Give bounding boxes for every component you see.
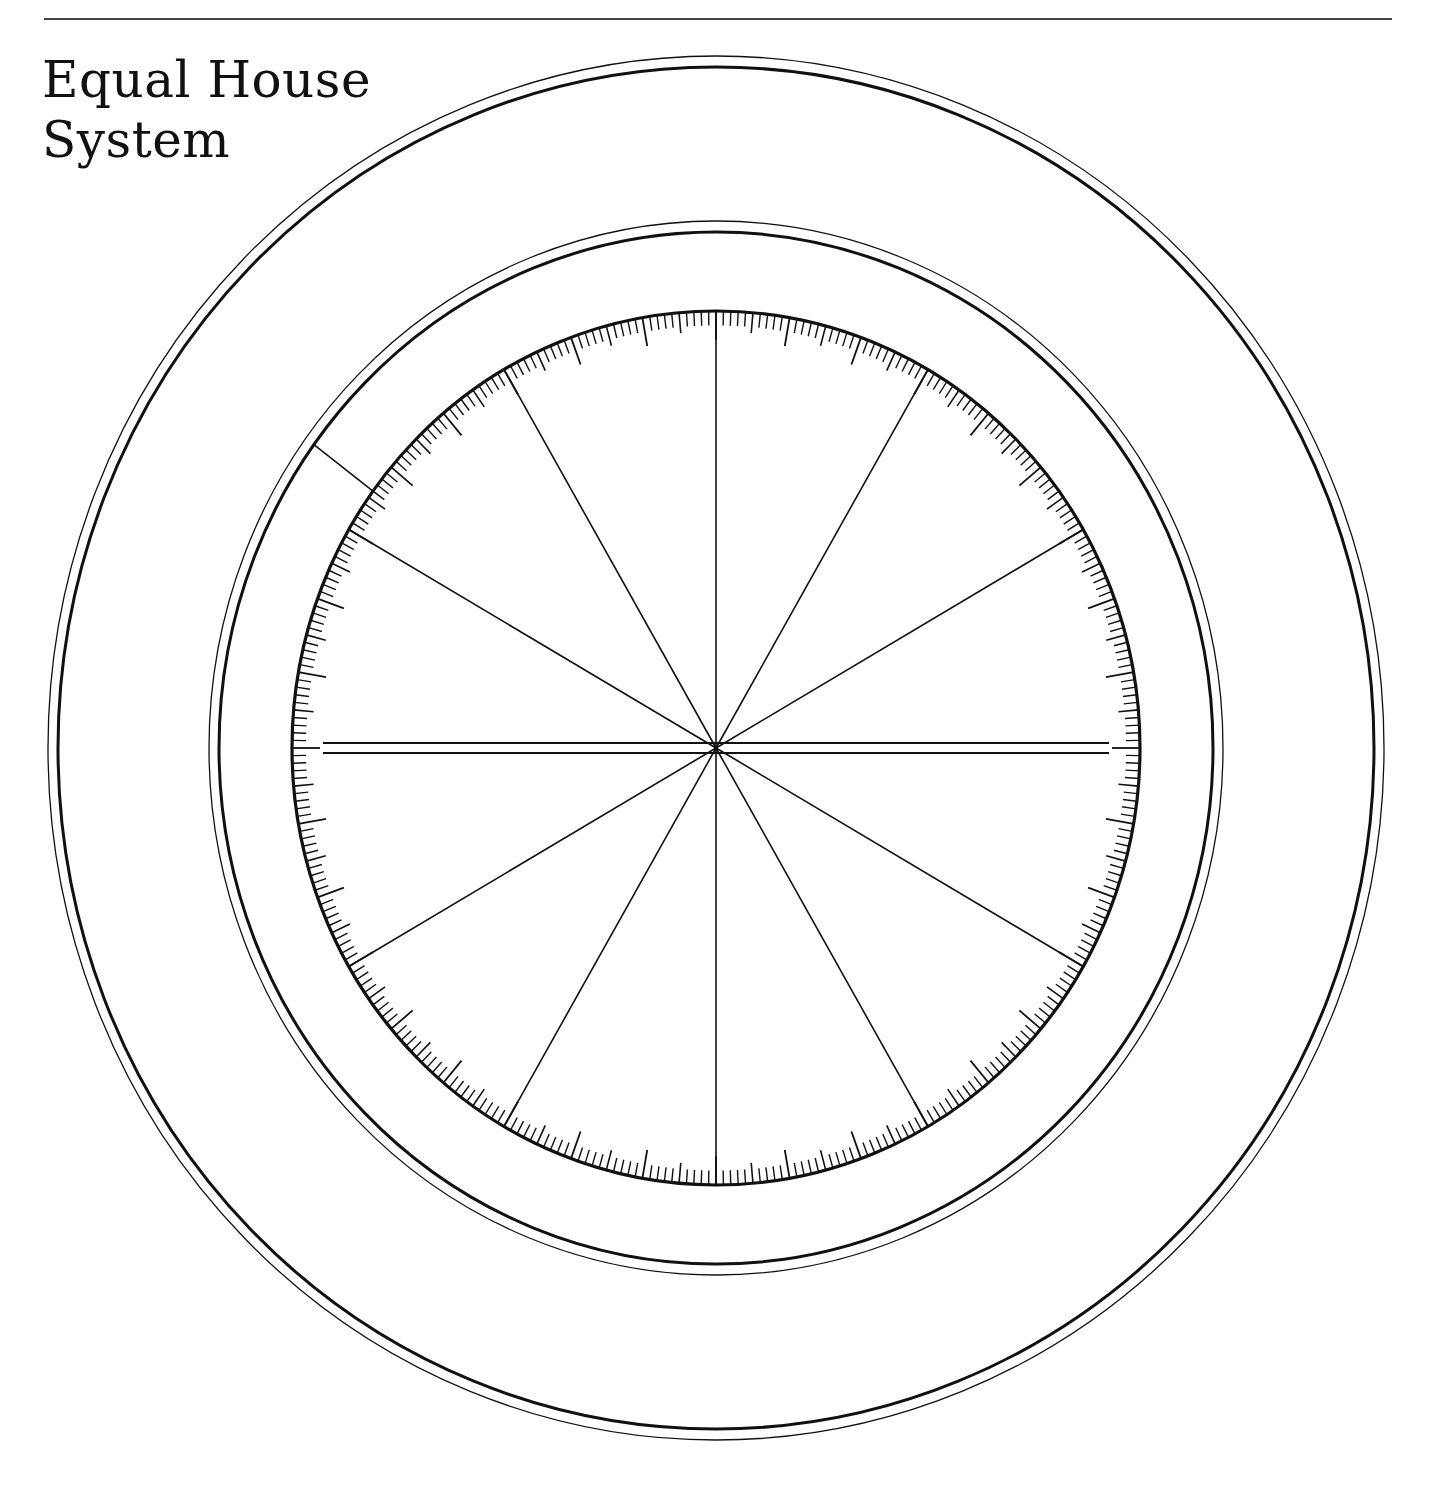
tick-mark bbox=[599, 1154, 603, 1168]
tick-mark bbox=[1091, 570, 1104, 576]
tick-mark bbox=[957, 1090, 965, 1102]
tick-mark bbox=[461, 1085, 469, 1097]
tick-mark bbox=[686, 1170, 687, 1184]
tick-mark bbox=[1115, 843, 1129, 846]
tick-mark bbox=[406, 450, 416, 460]
tick-mark bbox=[544, 1134, 550, 1147]
tick-mark bbox=[1110, 628, 1123, 632]
tick-mark bbox=[524, 359, 530, 372]
tick-mark bbox=[745, 312, 746, 326]
tick-mark bbox=[360, 978, 372, 986]
marker-line bbox=[314, 445, 373, 491]
tick-mark bbox=[427, 428, 437, 439]
tick-mark bbox=[908, 1121, 915, 1134]
tick-mark bbox=[295, 695, 309, 697]
tick-mark bbox=[1106, 819, 1134, 824]
tick-mark bbox=[635, 319, 638, 333]
tick-mark bbox=[1096, 906, 1109, 911]
tick-mark bbox=[1125, 777, 1139, 778]
tick-mark bbox=[887, 1125, 895, 1144]
tick-mark bbox=[297, 814, 311, 816]
tick-mark bbox=[1091, 920, 1104, 926]
tick-mark bbox=[1067, 523, 1079, 530]
tick-mark bbox=[1088, 888, 1114, 898]
tick-mark bbox=[785, 1150, 790, 1178]
tick-mark bbox=[296, 687, 310, 689]
tick-mark bbox=[303, 843, 317, 846]
tick-mark bbox=[927, 373, 934, 385]
tick-mark bbox=[621, 1160, 624, 1174]
tick-mark bbox=[537, 1125, 545, 1144]
tick-mark bbox=[1075, 536, 1087, 543]
tick-mark bbox=[657, 1166, 659, 1180]
tick-mark bbox=[1123, 799, 1137, 801]
tick-mark bbox=[592, 1152, 596, 1166]
tick-mark bbox=[737, 312, 738, 326]
tick-mark bbox=[939, 1102, 947, 1114]
tick-mark bbox=[1043, 1002, 1054, 1011]
tick-mark bbox=[851, 1132, 861, 1159]
tick-mark bbox=[971, 413, 989, 435]
tick-mark bbox=[694, 1170, 695, 1184]
tick-mark bbox=[737, 1170, 738, 1184]
tick-mark bbox=[564, 1143, 569, 1156]
tick-mark bbox=[455, 1081, 464, 1092]
tick-mark bbox=[297, 680, 311, 682]
tick-mark bbox=[326, 913, 339, 919]
tick-mark bbox=[843, 1150, 847, 1164]
tick-mark bbox=[1035, 473, 1046, 482]
tick-mark bbox=[801, 1161, 804, 1175]
tick-mark bbox=[996, 428, 1006, 439]
tick-mark bbox=[957, 394, 965, 406]
tick-mark bbox=[863, 1143, 868, 1156]
tick-mark bbox=[1104, 886, 1117, 891]
tick-mark bbox=[902, 1125, 908, 1138]
tick-mark bbox=[485, 382, 493, 394]
tick-mark bbox=[301, 836, 315, 839]
tick-mark bbox=[432, 1062, 441, 1073]
tick-mark bbox=[342, 543, 354, 550]
tick-mark bbox=[396, 461, 407, 470]
tick-mark bbox=[808, 322, 811, 336]
tick-mark bbox=[876, 346, 881, 359]
tick-mark bbox=[1106, 672, 1134, 677]
house-cusp-line bbox=[716, 370, 928, 748]
tick-mark bbox=[759, 1168, 760, 1182]
tick-mark bbox=[537, 352, 545, 371]
tick-mark bbox=[808, 1160, 811, 1174]
tick-mark bbox=[382, 1008, 393, 1017]
tick-mark bbox=[315, 886, 328, 891]
tick-mark bbox=[438, 1067, 447, 1078]
tick-mark bbox=[1039, 1008, 1050, 1017]
tick-mark bbox=[1019, 467, 1040, 486]
tick-mark bbox=[550, 1137, 555, 1150]
tick-mark bbox=[1025, 461, 1036, 470]
tick-mark bbox=[927, 1110, 934, 1122]
tick-mark bbox=[449, 1076, 458, 1087]
tick-mark bbox=[323, 906, 336, 911]
tick-mark bbox=[915, 1118, 922, 1131]
tick-mark bbox=[945, 386, 953, 398]
tick-mark bbox=[780, 316, 782, 330]
tick-mark bbox=[345, 953, 357, 960]
tick-mark bbox=[1064, 972, 1076, 980]
tick-mark bbox=[479, 386, 487, 398]
tick-mark bbox=[292, 763, 306, 764]
tick-mark bbox=[829, 1154, 833, 1168]
tick-mark bbox=[851, 337, 861, 364]
tick-mark bbox=[1048, 996, 1059, 1004]
tick-mark bbox=[896, 1128, 902, 1141]
tick-mark bbox=[990, 423, 999, 434]
tick-mark bbox=[1121, 680, 1135, 682]
tick-mark bbox=[606, 326, 611, 346]
tick-mark bbox=[571, 337, 581, 364]
tick-mark bbox=[815, 324, 818, 338]
tick-mark bbox=[1126, 763, 1140, 764]
tick-mark bbox=[306, 856, 325, 861]
tick-mark bbox=[672, 313, 673, 327]
tick-mark bbox=[849, 1148, 854, 1162]
tick-mark bbox=[377, 485, 388, 494]
tick-mark bbox=[396, 1025, 407, 1034]
tick-mark bbox=[887, 352, 895, 371]
tick-mark bbox=[550, 346, 555, 359]
